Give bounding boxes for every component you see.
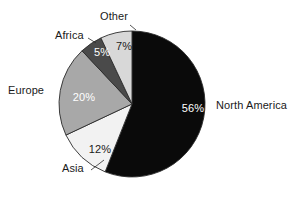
category-label-europe: Europe — [8, 84, 44, 96]
category-label-other: Other — [100, 10, 128, 22]
slice-value-europe: 20% — [73, 91, 95, 103]
slice-value-asia: 12% — [89, 143, 111, 155]
slice-value-other: 7% — [116, 40, 132, 52]
pie-chart-figure: 56% 12% 20% 5% 7% Other Africa Europe As… — [0, 0, 300, 203]
leader-line-africa — [88, 38, 96, 43]
leader-line-other — [130, 25, 136, 30]
slice-value-africa: 5% — [94, 46, 110, 58]
category-label-north-america: North America — [216, 99, 287, 111]
slice-value-north-america: 56% — [182, 102, 204, 114]
category-label-asia: Asia — [62, 162, 84, 174]
category-label-africa: Africa — [55, 29, 84, 41]
